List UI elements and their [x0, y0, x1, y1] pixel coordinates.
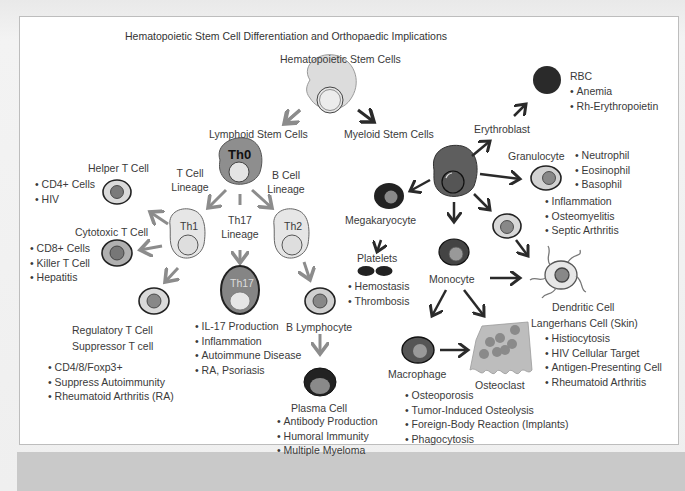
granulocyte-label: Granulocyte — [508, 149, 565, 163]
dendritic-cell-icon — [530, 246, 586, 298]
hsc-label: Hematopoietic Stem Cells — [280, 52, 401, 66]
granulocyte-conditions-list: Inflammation Osteomyelitis Septic Arthri… — [545, 194, 619, 238]
plasma-cell-label: Plasma Cell — [291, 401, 347, 415]
monocyte-cell-icon — [439, 239, 469, 265]
dendritic-list: Histiocytosis HIV Cellular Target Antige… — [545, 331, 662, 389]
precursor-cell-icon — [493, 214, 521, 238]
suppressor-t-label: Suppressor T cell — [72, 339, 153, 353]
th1-label: Th1 — [180, 219, 198, 233]
regulatory-t-cell-icon — [139, 288, 169, 314]
lymphoid-label: Lymphoid Stem Cells — [209, 127, 308, 141]
plasma-cell-icon — [304, 368, 336, 396]
rbc-list: Anemia Rh-Erythropoietin — [570, 84, 658, 113]
t-lineage-label: T Cell Lineage — [170, 166, 210, 194]
cytotoxic-t-list: CD8+ Cells Killer T Cell Hepatitis — [30, 241, 90, 285]
osteoclast-list: Osteoporosis Tumor-Induced Osteolysis Fo… — [405, 388, 569, 446]
rbc-label: RBC — [570, 69, 592, 83]
b-lymphocyte-cell-icon — [305, 288, 335, 314]
granulocyte-cell-icon — [531, 166, 561, 190]
platelets-icon — [358, 266, 393, 276]
th17-lineage-label: Th17 Lineage — [219, 213, 261, 241]
th0-label: Th0 — [228, 147, 251, 162]
erythroblast-label: Erythroblast — [474, 122, 530, 136]
osteoclast-cell-icon — [470, 322, 532, 374]
myeloid-label: Myeloid Stem Cells — [344, 127, 434, 141]
rbc-cell-icon — [533, 66, 561, 94]
granulocyte-types-list: Neutrophil Eosinophil Basophil — [575, 148, 630, 192]
macrophage-cell-icon — [402, 337, 434, 363]
b-lymphocyte-label: B Lymphocyte — [286, 320, 352, 334]
diagram-title: Hematopoietic Stem Cell Differentiation … — [125, 29, 447, 43]
megakaryocyte-label: Megakaryocyte — [345, 213, 416, 227]
platelets-list: Hemostasis Thrombosis — [348, 279, 409, 308]
helper-t-cell-icon — [103, 180, 131, 204]
cytotoxic-t-cell-icon — [102, 240, 132, 266]
th2-cell-icon — [274, 209, 309, 258]
macrophage-label: Macrophage — [388, 367, 446, 381]
regulatory-t-list: CD4/8/Foxp3+ Suppress Autoimmunity Rheum… — [48, 360, 174, 404]
th17-label: Th17 — [230, 276, 254, 290]
megakaryocyte-cell-icon — [374, 183, 404, 209]
th17-cell-icon — [221, 266, 259, 314]
dendritic-label: Dendritic Cell — [552, 300, 614, 314]
myeloid-progenitor-cell-icon — [433, 145, 477, 196]
th2-label: Th2 — [284, 219, 302, 233]
monocyte-label: Monocyte — [429, 272, 475, 286]
b-lineage-label: B Cell Lineage — [266, 168, 306, 196]
th1-cell-icon — [170, 209, 205, 258]
plasma-cell-list: Antibody Production Humoral Immunity Mul… — [277, 414, 378, 458]
cytotoxic-t-label: Cytotoxic T Cell — [75, 225, 148, 239]
regulatory-t-label: Regulatory T Cell — [72, 323, 153, 337]
helper-t-list: CD4+ Cells HIV — [35, 177, 95, 206]
platelets-label: Platelets — [357, 251, 397, 265]
helper-t-label: Helper T Cell — [88, 161, 149, 175]
langerhans-label: Langerhans Cell (Skin) — [531, 316, 638, 330]
